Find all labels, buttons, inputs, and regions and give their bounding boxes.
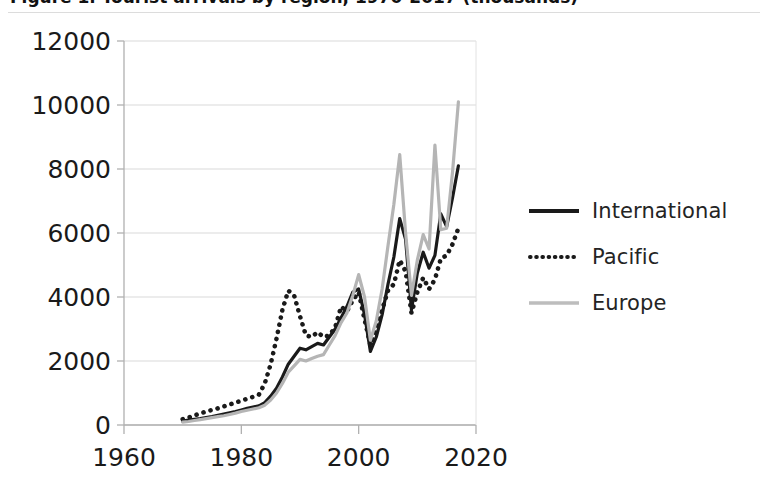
legend-label-international: International xyxy=(592,199,727,223)
chart-legend: International Pacific Europe xyxy=(528,188,763,326)
x-axis-tick-labels: 1960198020002020 xyxy=(92,443,508,472)
y-tick-label-0: 0 xyxy=(95,411,111,440)
y-tick-label-12000: 12000 xyxy=(31,27,111,56)
y-tick-label-10000: 10000 xyxy=(31,91,111,120)
legend-item-europe: Europe xyxy=(528,280,763,326)
x-tick-label-2000: 2000 xyxy=(327,443,391,472)
series-line-europe xyxy=(183,102,459,422)
y-tick-label-4000: 4000 xyxy=(47,283,111,312)
y-tick-label-6000: 6000 xyxy=(47,219,111,248)
solid-line-icon xyxy=(528,204,580,218)
data-series-group xyxy=(183,102,459,422)
legend-label-pacific: Pacific xyxy=(592,245,659,269)
gridlines xyxy=(124,41,476,425)
x-tick-label-1980: 1980 xyxy=(210,443,274,472)
gray-line-icon xyxy=(528,296,580,310)
legend-label-europe: Europe xyxy=(592,291,666,315)
y-axis-tick-labels: 020004000600080001000012000 xyxy=(31,27,111,440)
x-tick-label-2020: 2020 xyxy=(444,443,508,472)
legend-item-international: International xyxy=(528,188,763,234)
chart-figure: Figure 1. Tourist arrivals by region, 19… xyxy=(0,0,767,486)
legend-item-pacific: Pacific xyxy=(528,234,763,280)
y-tick-label-8000: 8000 xyxy=(47,155,111,184)
y-tick-label-2000: 2000 xyxy=(47,347,111,376)
x-tick-label-1960: 1960 xyxy=(92,443,156,472)
dotted-line-icon xyxy=(528,250,580,264)
